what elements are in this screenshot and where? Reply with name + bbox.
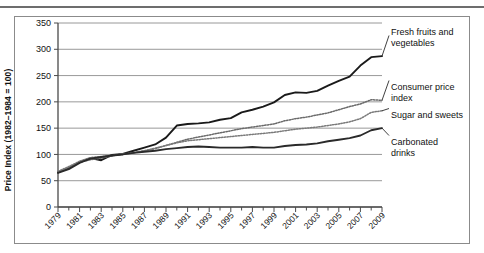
- series-line-consumer-price-index: [58, 100, 382, 173]
- legend-line-2: vegetables: [391, 38, 454, 49]
- y-tick-label: 200: [36, 97, 51, 107]
- y-tick-label: 150: [36, 123, 51, 133]
- legend-line-2: index: [391, 93, 455, 104]
- y-tick-label: 350: [36, 18, 51, 28]
- x-tick-label: 2001: [280, 210, 301, 231]
- legend-label-carbonated-drinks: Carbonated drinks: [391, 137, 438, 159]
- y-tick-label: 50: [41, 176, 51, 186]
- legend-leader-line: [382, 128, 389, 135]
- x-tick-label: 1983: [86, 210, 107, 231]
- legend-label-consumer-price-index: Consumer price index: [391, 82, 455, 104]
- x-tick-label: 1989: [150, 210, 171, 231]
- chart-figure: Price Index (1982–1984 = 100) 0501001502…: [0, 0, 484, 253]
- legend-label-sugar-and-sweets: Sugar and sweets: [391, 110, 463, 121]
- legend-line-1: Sugar and sweets: [391, 110, 463, 121]
- y-tick-label: 0: [46, 202, 51, 212]
- y-tick-label: 250: [36, 71, 51, 81]
- x-tick-label: 1981: [64, 210, 85, 231]
- legend-label-fresh-fruits-and-vegetables: Fresh fruits and vegetables: [391, 27, 454, 49]
- legend-line-1: Carbonated: [391, 137, 438, 148]
- x-tick-label: 1987: [129, 210, 150, 231]
- series-line-carbonated-drinks: [58, 128, 382, 173]
- legend-leader-line: [382, 36, 389, 57]
- x-tick-label: 1995: [215, 210, 236, 231]
- x-tick-label: 1997: [237, 210, 258, 231]
- x-tick-label: 1979: [42, 210, 63, 231]
- x-tick-label: 1999: [258, 210, 279, 231]
- x-tick-label: 2005: [323, 210, 344, 231]
- x-tick-label: 1993: [194, 210, 215, 231]
- legend-leader-line: [382, 81, 389, 101]
- y-tick-label: 100: [36, 150, 51, 160]
- x-tick-label: 2007: [345, 210, 366, 231]
- legend-leader-line: [382, 109, 389, 111]
- x-tick-label: 1991: [172, 210, 193, 231]
- x-tick-label: 1985: [107, 210, 128, 231]
- x-tick-label: 2009: [366, 210, 387, 231]
- y-tick-label: 300: [36, 44, 51, 54]
- legend-line-1: Consumer price: [391, 82, 455, 93]
- x-tick-label: 2003: [302, 210, 323, 231]
- legend-line-1: Fresh fruits and: [391, 27, 454, 38]
- legend-line-2: drinks: [391, 148, 438, 159]
